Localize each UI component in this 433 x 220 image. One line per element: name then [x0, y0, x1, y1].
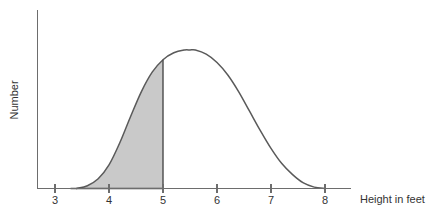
y-axis-title: Number: [8, 80, 20, 119]
x-tick-label-5: 5: [160, 194, 166, 206]
x-tick-label-7: 7: [268, 194, 274, 206]
chart-container: 3 4 5 6 7 8 Height in feet Number: [0, 0, 433, 220]
x-tick-label-4: 4: [106, 194, 112, 206]
x-axis-title: Height in feet: [360, 193, 425, 205]
x-tick-label-3: 3: [52, 194, 58, 206]
x-tick-label-6: 6: [214, 194, 220, 206]
distribution-chart: 3 4 5 6 7 8 Height in feet Number: [0, 0, 433, 220]
x-tick-label-8: 8: [322, 194, 328, 206]
shaded-area-region: [77, 60, 163, 189]
